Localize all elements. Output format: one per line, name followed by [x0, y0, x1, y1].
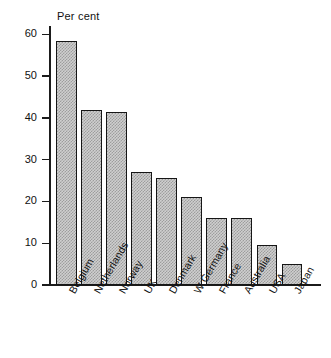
plot-area	[49, 26, 321, 285]
y-tick-label: 30	[3, 154, 37, 165]
bar	[56, 41, 77, 285]
bar	[156, 178, 177, 285]
bar-chart: Per cent 0102030405060 BelgiumNetherland…	[0, 0, 331, 358]
y-tick-label: 50	[3, 70, 37, 81]
y-tick-label: 60	[3, 28, 37, 39]
y-tick-label: 10	[3, 237, 37, 248]
y-tick-label: 0	[3, 279, 37, 290]
y-tick-label: 20	[3, 195, 37, 206]
y-tick-label: 40	[3, 112, 37, 123]
y-axis-title: Per cent	[57, 10, 100, 22]
